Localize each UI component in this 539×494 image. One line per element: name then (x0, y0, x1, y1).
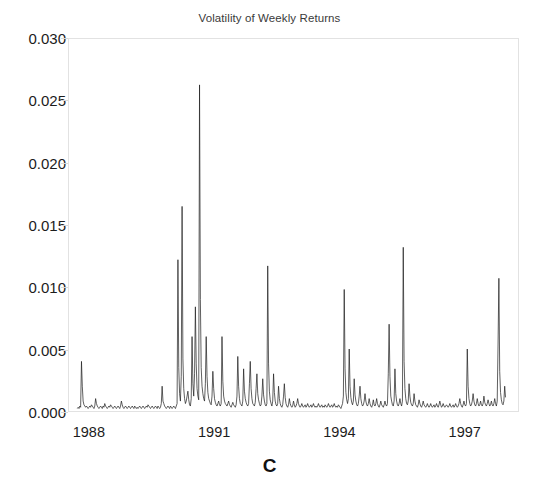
panel-caption: C (0, 455, 539, 477)
plot-area (68, 38, 519, 412)
y-tick-label: 0.000 (10, 404, 66, 421)
y-tick-label: 0.020 (10, 154, 66, 171)
volatility-series (69, 39, 518, 411)
y-tick-mark (61, 412, 68, 413)
volatility-chart-figure: Volatility of Weekly Returns 0.0000.0050… (0, 0, 539, 494)
y-tick-mark (61, 287, 68, 288)
x-tick-label: 1997 (449, 424, 481, 440)
x-tick-label: 1991 (198, 424, 230, 440)
x-tick-label: 1994 (323, 424, 355, 440)
y-tick-label: 0.030 (10, 30, 66, 47)
y-tick-mark (61, 38, 68, 39)
y-tick-mark (61, 100, 68, 101)
y-tick-label: 0.010 (10, 279, 66, 296)
x-tick-label: 1988 (73, 424, 105, 440)
volatility-line (77, 85, 505, 409)
chart-title: Volatility of Weekly Returns (0, 12, 539, 24)
y-tick-mark (61, 225, 68, 226)
y-tick-label: 0.005 (10, 341, 66, 358)
y-tick-label: 0.015 (10, 217, 66, 234)
y-tick-label: 0.025 (10, 92, 66, 109)
y-tick-mark (61, 350, 68, 351)
y-tick-mark (61, 163, 68, 164)
y-axis: 0.0000.0050.0100.0150.0200.0250.030 (0, 0, 66, 494)
